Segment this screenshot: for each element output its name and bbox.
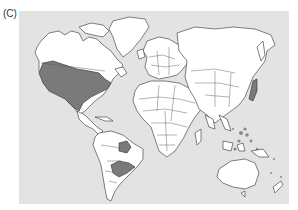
south-america (93, 131, 143, 201)
australia (217, 159, 283, 197)
north-america (35, 17, 149, 135)
panel-label: (C) (3, 8, 17, 19)
world-map (19, 11, 289, 204)
world-map-svg (19, 11, 289, 204)
